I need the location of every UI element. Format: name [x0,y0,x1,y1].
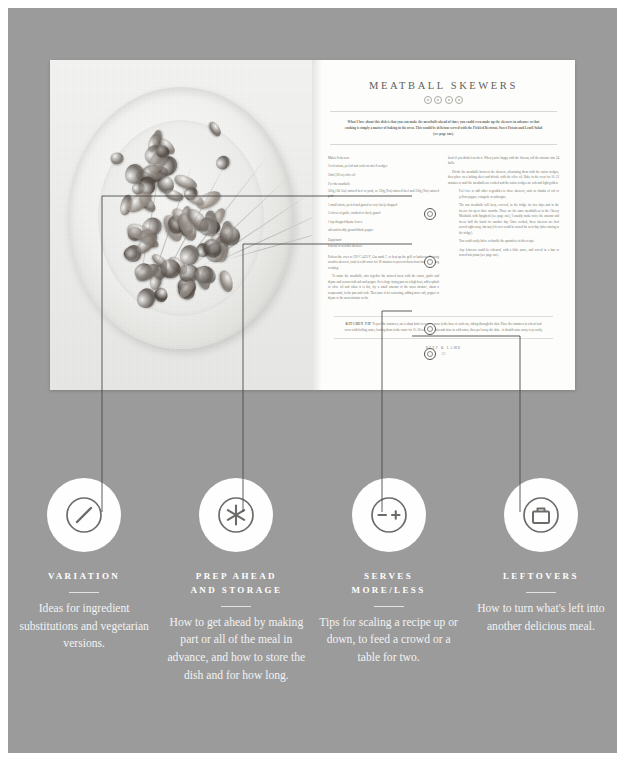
subhead-equipment: Equipment [328,238,439,244]
ingredient-line: 2 cloves of garlic, crushed or finely gr… [328,211,439,217]
page-folio: BEEF & LAMB 121 [328,346,559,356]
leftovers-icon-badge[interactable] [504,478,578,552]
meatball [160,260,181,279]
equipment-line: 8 metal or wooden skewers [328,244,439,250]
onion-wedge [208,120,224,138]
legend-rule [221,606,251,607]
serves-line: Makes 8 skewers [328,156,439,162]
leftovers-icon [455,96,463,104]
prep-ahead-icon [434,96,442,104]
legend-description: How to get ahead by making part or all o… [166,614,306,684]
annotation-text: You could easily halve or double the qua… [448,239,559,245]
annotation-marker-variation[interactable] [424,208,436,220]
poster-canvas: MEATBALL SKEWERS What I love about this … [8,8,617,753]
annotation-marker-prep-ahead[interactable] [424,256,436,268]
variation-icon [61,492,107,538]
method-paragraph: Preheat the oven to 220°C (425°F, Gas ma… [328,255,439,272]
legend-title: VARIATION [48,570,120,584]
annotation-marker-leftovers[interactable] [424,348,436,360]
recipe-photo-page [50,60,312,390]
divider-top [330,111,557,112]
prep-ahead-icon [213,492,259,538]
legend-row: VARIATION Ideas for ingredient substitut… [8,478,617,684]
onion-wedge [218,269,236,294]
legend-rule [374,606,404,607]
prep-ahead-icon-badge[interactable] [199,478,273,552]
legend-title: PREP AHEADAND STORAGE [190,570,282,598]
legend-description: Tips for scaling a recipe up or down, to… [319,614,459,667]
recipe-book-spread: MEATBALL SKEWERS What I love about this … [50,60,575,390]
kitchen-tip-label: KITCHEN TIP [345,322,371,326]
legend-rule [69,592,99,593]
legend-rule [526,592,556,593]
divider-below-intro [330,144,557,145]
variation-icon [424,96,432,104]
legend-description: Ideas for ingredient substitutions and v… [14,600,154,653]
ingredient-line: 3 red onions, peeled and each cut into 8… [328,164,439,170]
recipe-title: MEATBALL SKEWERS [328,80,559,91]
recipe-title-icon-row [328,96,559,104]
method-paragraph: To make the meatballs, mix together the … [328,274,439,302]
annotation-text: The raw meatballs will keep, covered, in… [448,203,559,236]
recipe-intro: What I love about this dish is that you … [328,119,559,138]
meatball-skewers-food [108,121,254,309]
legend-item-prep-ahead[interactable]: PREP AHEADAND STORAGE How to get ahead b… [160,478,312,684]
recipe-right-column: bowl if you think it needs it. When you'… [448,156,559,305]
gutter-shadow [312,60,322,390]
kitchen-tip-text: To peel the tomatoes, use a sharp knife … [344,322,542,332]
annotation-marker-serves[interactable] [424,323,436,335]
recipe-left-column: Makes 8 skewers 3 red onions, peeled and… [328,156,439,305]
leftovers-icon [518,492,564,538]
annotation-text: Any leftovers could be reheated, with a … [448,248,559,259]
legend-item-serves[interactable]: SERVESMORE/LESS Tips for scaling a recip… [313,478,465,684]
legend-item-variation[interactable]: VARIATION Ideas for ingredient substitut… [8,478,160,684]
subhead-meatballs: For the meatballs [328,182,439,188]
meatball [213,153,231,171]
folio-page-number: 121 [328,352,559,356]
serves-more-less-icon [366,492,412,538]
ingredient-line: 1 small onion, peeled and grated or very… [328,203,439,209]
legend-item-leftovers[interactable]: LEFTOVERS How to turn what's left into a… [465,478,617,684]
recipe-text-page: MEATBALL SKEWERS What I love about this … [312,60,575,390]
legend-title: LEFTOVERS [503,570,579,584]
method-paragraph: bowl if you think it needs it. When you'… [448,156,559,167]
annotation-text: Feel free to add other vegetables to the… [448,189,559,200]
method-paragraph: Divide the meatballs between the skewers… [448,170,559,187]
variation-icon-badge[interactable] [47,478,121,552]
ingredient-line: 500g (1lb 2oz) minced beef or pork, or 2… [328,189,439,200]
legend-title: SERVESMORE/LESS [352,570,426,598]
ingredient-line: 1 tsp chopped thyme leaves [328,220,439,226]
recipe-columns: Makes 8 skewers 3 red onions, peeled and… [328,156,559,305]
ingredient-line: 50ml (2fl oz) olive oil [328,173,439,179]
ingredient-line: salt and freshly ground black pepper [328,228,439,234]
serves-more-less-icon [445,96,453,104]
legend-description: How to turn what's left into another del… [471,600,611,635]
meatball [110,152,125,166]
serves-more-less-icon-badge[interactable] [352,478,426,552]
kitchen-tip-box: KITCHEN TIP To peel the tomatoes, use a … [334,316,553,339]
